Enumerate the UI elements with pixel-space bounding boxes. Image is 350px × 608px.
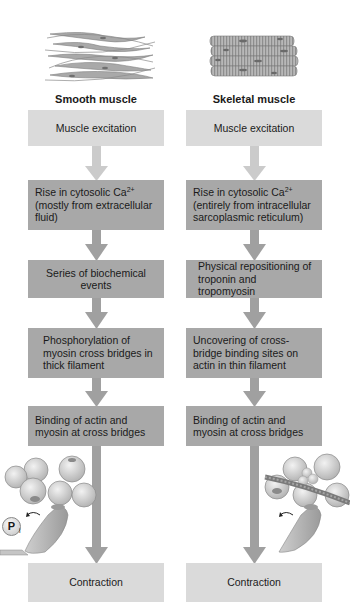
phosphate-sub: i — [19, 527, 21, 534]
smooth-step-muscle-excitation: Muscle excitation — [28, 110, 164, 146]
smooth-step-contraction: Contraction — [28, 563, 164, 602]
skeletal-step-repositioning: Physical repositioning of troponin and t… — [186, 260, 322, 298]
smooth-step-phosphorylation: Phosphorylation of myosin cross bridges … — [28, 328, 164, 378]
smooth-step-binding: Binding of actin and myosin at cross bri… — [28, 406, 164, 446]
smooth-actin-myosin-icon — [0, 455, 85, 555]
arrow-down-icon — [85, 146, 108, 181]
skeletal-step-rise-calcium: Rise in cytosolic Ca2+(entirely from int… — [186, 180, 322, 230]
skeletal-step-binding: Binding of actin and myosin at cross bri… — [186, 406, 322, 446]
skeletal-step-uncovering: Uncovering of cross-bridge binding sites… — [186, 328, 322, 378]
smooth-step-rise-calcium: Rise in cytosolic Ca2+(mostly from extra… — [28, 180, 164, 230]
arrow-down-icon — [243, 146, 266, 181]
skeletal-actin-myosin-icon — [265, 455, 350, 555]
skeletal-step-contraction: Contraction — [186, 563, 322, 602]
skeletal-step-muscle-excitation: Muscle excitation — [186, 110, 322, 146]
smooth-step-biochemical-events: Series of biochemical events — [28, 260, 164, 298]
